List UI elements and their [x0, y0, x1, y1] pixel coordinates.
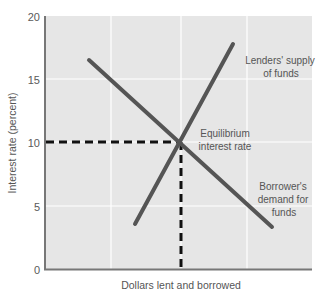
y-tick-0: 0 — [34, 264, 40, 276]
y-tick-5: 5 — [34, 201, 40, 213]
y-tick-10: 10 — [28, 137, 40, 149]
svg-text:funds: funds — [272, 207, 296, 218]
svg-text:Lenders' supply: Lenders' supply — [245, 55, 315, 66]
y-axis-label: Interest rate (percent) — [6, 93, 18, 194]
x-axis-label: Dollars lent and borrowed — [121, 279, 241, 291]
svg-text:demand for: demand for — [258, 194, 309, 205]
svg-text:interest rate: interest rate — [199, 141, 252, 152]
y-tick-20: 20 — [28, 11, 40, 23]
y-tick-labels: 20 15 10 5 0 — [28, 11, 40, 276]
y-tick-15: 15 — [28, 74, 40, 86]
svg-text:Equilibrium: Equilibrium — [200, 128, 249, 139]
interest-rate-chart: 20 15 10 5 0 Interest rate (percent) Dol… — [0, 0, 325, 296]
svg-text:Borrower's: Borrower's — [259, 181, 306, 192]
svg-text:of funds: of funds — [263, 68, 299, 79]
